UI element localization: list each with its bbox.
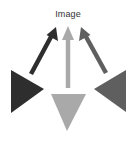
bottom-triangle-icon <box>51 94 86 131</box>
diagram-canvas <box>0 0 136 141</box>
diagram: Image <box>0 0 136 141</box>
arrow-dark-shaft <box>31 34 53 74</box>
arrow-dark <box>31 27 58 74</box>
left-triangle-icon <box>11 70 44 113</box>
arrow-light-head-icon <box>62 26 74 40</box>
right-triangle-icon <box>94 70 126 112</box>
arrow-mid <box>79 27 106 73</box>
arrow-mid-shaft <box>85 34 107 73</box>
arrow-light <box>62 26 74 88</box>
